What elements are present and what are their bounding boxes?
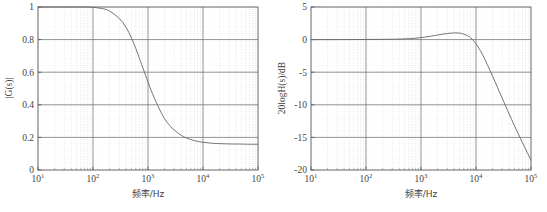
- x-tick-label: 104: [197, 172, 211, 184]
- y-tick-label: -15: [294, 133, 307, 143]
- x-tick-label: 105: [525, 172, 539, 184]
- x-tick-label: 105: [252, 172, 266, 184]
- left-y-axis-title: |G(s)|: [4, 78, 15, 99]
- right-chart-svg: 10110210310410550-5-10-15-20 频率/Hz 20log…: [273, 0, 547, 212]
- right-x-axis-title: 频率/Hz: [405, 188, 438, 199]
- y-tick-label: -10: [294, 100, 307, 110]
- y-tick-label: 5: [302, 2, 307, 12]
- y-tick-label: 0: [302, 35, 307, 45]
- x-tick-label: 103: [415, 172, 429, 184]
- right-chart-figure: 10110210310410550-5-10-15-20 频率/Hz 20log…: [273, 0, 547, 212]
- y-tick-label: 1: [29, 2, 34, 12]
- x-tick-label: 104: [470, 172, 484, 184]
- x-tick-label: 102: [87, 172, 100, 184]
- left-x-axis-title: 频率/Hz: [132, 188, 165, 199]
- x-tick-label: 103: [142, 172, 156, 184]
- left-tick-labels: 10110210310410500.20.40.60.81: [22, 2, 265, 184]
- right-tick-labels: 10110210310410550-5-10-15-20: [294, 2, 538, 184]
- y-tick-label: 0.4: [22, 100, 34, 110]
- y-tick-label: 0: [29, 165, 34, 175]
- left-chart-svg: 10110210310410500.20.40.60.81 频率/Hz |G(s…: [0, 0, 274, 212]
- y-tick-label: 0.8: [22, 35, 34, 45]
- y-tick-label: -5: [299, 68, 307, 78]
- y-tick-label: -20: [294, 165, 307, 175]
- x-tick-label: 102: [360, 172, 373, 184]
- figure-container: 10110210310410500.20.40.60.81 频率/Hz |G(s…: [0, 0, 547, 212]
- y-tick-label: 0.6: [22, 68, 34, 78]
- y-tick-label: 0.2: [22, 133, 34, 143]
- left-chart-figure: 10110210310410500.20.40.60.81 频率/Hz |G(s…: [0, 0, 274, 212]
- right-y-axis-title: 20logH(s)/dB: [277, 62, 288, 114]
